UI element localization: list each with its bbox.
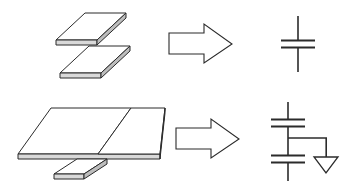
capacitor-plate-diagram xyxy=(0,0,350,188)
plate-middle-large xyxy=(18,108,165,159)
plate-lower-front-edge xyxy=(60,73,101,78)
plate-stack-three xyxy=(18,108,165,179)
block-arrow-right-icon xyxy=(169,24,232,63)
row-two-plate xyxy=(56,13,315,78)
capacitor-icon-single xyxy=(281,16,315,72)
plate-lower xyxy=(60,46,130,78)
plate-pair-upper xyxy=(56,13,130,78)
plate-upper-front-edge xyxy=(56,40,97,45)
plate-bottom-small-front-edge xyxy=(54,174,84,179)
plate-upper xyxy=(56,13,126,45)
block-arrow-right-shape-2 xyxy=(176,119,239,158)
capacitor-icon-series-grounded xyxy=(271,102,338,181)
row-three-plate xyxy=(18,102,338,181)
plate-middle-large-front-edge xyxy=(18,154,160,159)
block-arrow-right-shape xyxy=(169,24,232,63)
ground-arrow-down-icon xyxy=(314,157,338,173)
plate-bottom-small xyxy=(54,159,107,179)
diagram-canvas xyxy=(0,0,350,188)
block-arrow-right-icon-2 xyxy=(176,119,239,158)
